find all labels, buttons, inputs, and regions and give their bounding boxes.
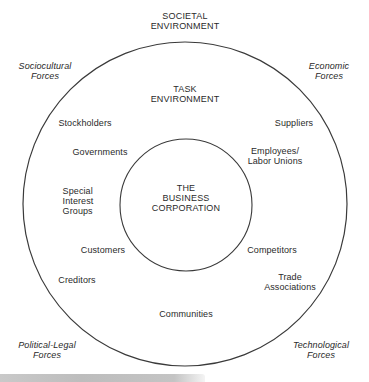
title-line: TASK — [151, 84, 220, 94]
label-line: Competitors — [247, 245, 297, 255]
label-line: Associations — [264, 282, 316, 292]
stakeholder-special-interest-groups: Special Interest Groups — [63, 186, 94, 216]
title-line: ENVIRONMENT — [151, 21, 220, 31]
stakeholder-creditors: Creditors — [58, 275, 95, 285]
label-line: Special — [63, 186, 94, 196]
stakeholder-suppliers: Suppliers — [275, 118, 313, 128]
label-line: CORPORATION — [152, 203, 221, 213]
stakeholder-stockholders: Stockholders — [58, 118, 111, 128]
label-line: Suppliers — [275, 118, 313, 128]
label-line: Sociocultural — [19, 61, 72, 71]
label-line: BUSINESS — [152, 193, 221, 203]
label-line: Political-Legal — [18, 340, 76, 350]
label-line: Forces — [309, 71, 349, 81]
label-line: Communities — [159, 309, 213, 319]
label-line: Technological — [293, 340, 349, 350]
label-line: Customers — [81, 245, 125, 255]
business-corporation-label: THE BUSINESS CORPORATION — [152, 183, 221, 213]
label-line: Governments — [72, 147, 127, 157]
label-line: Interest — [63, 196, 94, 206]
label-line: Employees/ — [248, 146, 303, 156]
label-line: Economic — [309, 61, 349, 71]
economic-forces-label: Economic Forces — [309, 61, 349, 81]
label-line: Stockholders — [58, 118, 111, 128]
title-line: ENVIRONMENT — [151, 94, 220, 104]
environment-diagram: SOCIETAL ENVIRONMENT Sociocultural Force… — [0, 0, 369, 382]
title-line: SOCIETAL — [151, 11, 220, 21]
sociocultural-forces-label: Sociocultural Forces — [19, 61, 72, 81]
societal-environment-title: SOCIETAL ENVIRONMENT — [151, 11, 220, 31]
stakeholder-customers: Customers — [81, 245, 125, 255]
label-line: Forces — [18, 350, 76, 360]
label-line: Forces — [19, 71, 72, 81]
stakeholder-communities: Communities — [159, 309, 213, 319]
stakeholder-competitors: Competitors — [247, 245, 297, 255]
technological-forces-label: Technological Forces — [293, 340, 349, 360]
scan-artifact — [0, 374, 205, 382]
political-legal-forces-label: Political-Legal Forces — [18, 340, 76, 360]
label-line: Labor Unions — [248, 156, 303, 166]
label-line: Groups — [63, 206, 94, 216]
label-line: Trade — [264, 272, 316, 282]
label-line: THE — [152, 183, 221, 193]
label-line: Creditors — [58, 275, 95, 285]
stakeholder-trade-associations: Trade Associations — [264, 272, 316, 292]
task-environment-title: TASK ENVIRONMENT — [151, 84, 220, 104]
stakeholder-employees-labor-unions: Employees/ Labor Unions — [248, 146, 303, 166]
stakeholder-governments: Governments — [72, 147, 127, 157]
label-line: Forces — [293, 350, 349, 360]
